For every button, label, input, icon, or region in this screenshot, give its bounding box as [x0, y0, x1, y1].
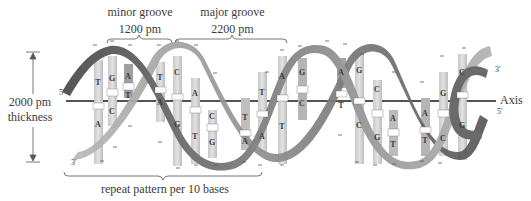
- svg-text:A: A: [259, 132, 265, 141]
- svg-text:A: A: [157, 98, 163, 107]
- svg-text:G: G: [459, 121, 465, 130]
- svg-text:C: C: [174, 68, 180, 77]
- svg-text:T: T: [157, 73, 163, 82]
- repeat-pattern-brace: [64, 172, 262, 180]
- svg-text:A: A: [192, 89, 198, 98]
- svg-text:T: T: [390, 140, 396, 149]
- svg-text:A: A: [125, 72, 131, 81]
- svg-text:T: T: [279, 122, 285, 131]
- svg-text:T: T: [242, 113, 248, 122]
- strand-end-5prime-right: 5': [497, 107, 502, 116]
- svg-text:A: A: [422, 109, 428, 118]
- dna-helix-diagram: TA GC AT TA CG AT CG TA TA AT GC AT GC C…: [0, 0, 531, 201]
- svg-text:A: A: [338, 68, 344, 77]
- svg-text:G: G: [356, 66, 362, 75]
- major-groove-brace: [175, 35, 287, 43]
- svg-text:T: T: [192, 132, 198, 141]
- svg-text:A: A: [279, 72, 285, 81]
- strand-end-3prime-right: 3': [495, 65, 500, 74]
- minor-groove-brace: [107, 35, 172, 43]
- svg-text:G: G: [374, 133, 380, 142]
- svg-text:G: G: [109, 74, 115, 83]
- svg-text:G: G: [174, 120, 180, 129]
- strand-end-3prime-left: 3': [71, 158, 76, 167]
- svg-text:C: C: [299, 99, 305, 108]
- strand-end-5prime-left: 5': [59, 88, 64, 97]
- svg-text:T: T: [125, 91, 131, 100]
- svg-text:A: A: [95, 120, 101, 129]
- thickness-dimension: [26, 52, 40, 162]
- svg-text:G: G: [440, 89, 446, 98]
- svg-text:C: C: [109, 107, 115, 116]
- svg-text:T: T: [422, 136, 428, 145]
- svg-text:G: G: [209, 138, 215, 147]
- svg-text:C: C: [374, 85, 380, 94]
- svg-text:A: A: [390, 114, 396, 123]
- svg-text:T: T: [338, 101, 344, 110]
- svg-text:A: A: [242, 137, 248, 146]
- svg-text:C: C: [440, 134, 446, 143]
- svg-text:C: C: [209, 112, 215, 121]
- svg-text:C: C: [459, 68, 465, 77]
- svg-text:T: T: [95, 78, 101, 87]
- svg-text:C: C: [356, 121, 362, 130]
- svg-text:G: G: [299, 68, 305, 77]
- svg-text:T: T: [259, 88, 265, 97]
